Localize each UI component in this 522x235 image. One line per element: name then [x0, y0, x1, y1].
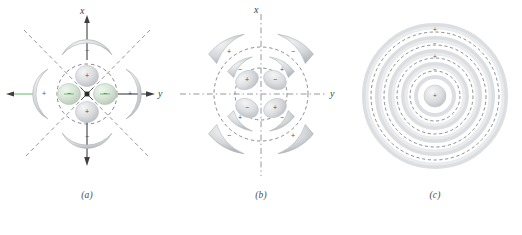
inner-lobe-right: − [94, 84, 117, 105]
core-sphere: + [424, 85, 446, 107]
outer-lobe-left-sign: + [42, 90, 46, 97]
outer-ring-lobe-lower-left-sign: − [227, 132, 231, 139]
shell-core-sign: + [433, 92, 437, 99]
inner-ring-lobe-upper-right-sign: − [273, 76, 277, 83]
outer-lobe-left: + [33, 69, 48, 119]
shell-1-sign: − [433, 66, 437, 73]
green-arrow-icon [6, 91, 36, 96]
inner-ring-lobe-lower-left-sign: − [245, 104, 249, 111]
inner-lobe-left-sign: − [67, 90, 71, 97]
shell-3-sign: − [433, 40, 437, 47]
inner-lobe-left: − [58, 84, 81, 105]
panel-b: x y + − − + [174, 0, 348, 200]
outer-ring-lobe-lower-right-sign: + [291, 132, 295, 139]
axis-x: x [253, 4, 261, 176]
inner-lobe-bottom-sign: + [85, 108, 89, 115]
panel-b-svg: x y + − − + [174, 0, 348, 200]
panel-c: + + − + − [348, 0, 522, 200]
outer-lobe-right-sign: + [128, 90, 132, 97]
orbital-figure: x y − − [0, 0, 522, 235]
axis-y: y [180, 88, 335, 99]
inner-ring-lobe-upper-left-sign: + [245, 76, 249, 83]
nucleus-dot [81, 88, 93, 100]
outer-lobe-top: − [62, 40, 112, 55]
axis-label-y: y [157, 88, 163, 99]
shell-4-sign: + [433, 26, 437, 33]
caption-panel-c: (c) [348, 190, 522, 200]
axis-label-y: y [329, 88, 335, 99]
shell-2-sign: + [433, 53, 437, 60]
caption-panel-b: (b) [174, 190, 348, 200]
inner-lobe-bottom: + [76, 102, 99, 123]
panel-a-svg: x y − − [0, 0, 174, 200]
middle-ring-lobe-upper-right-sign: + [280, 66, 284, 73]
outer-ring-lobe-upper-right-sign: − [291, 48, 295, 55]
inner-lobe-top-sign: + [85, 72, 89, 79]
panel-a: x y − − [0, 0, 174, 200]
inner-ring-lobe-lower-right-sign: + [273, 104, 277, 111]
outer-lobe-top-sign: − [85, 47, 89, 54]
caption-panel-a: (a) [0, 190, 174, 200]
inner-lobe-right-sign: − [103, 90, 107, 97]
axis-label-x: x [79, 5, 85, 16]
panel-c-svg: + + − + − [348, 0, 522, 200]
axis-label-x: x [253, 4, 259, 15]
outer-lobe-bottom-sign: − [85, 133, 89, 140]
inner-lobe-top: + [76, 66, 99, 87]
outer-ring-lobe-upper-left-sign: + [227, 48, 231, 55]
middle-ring-lobe-upper-left-sign: − [238, 66, 242, 73]
